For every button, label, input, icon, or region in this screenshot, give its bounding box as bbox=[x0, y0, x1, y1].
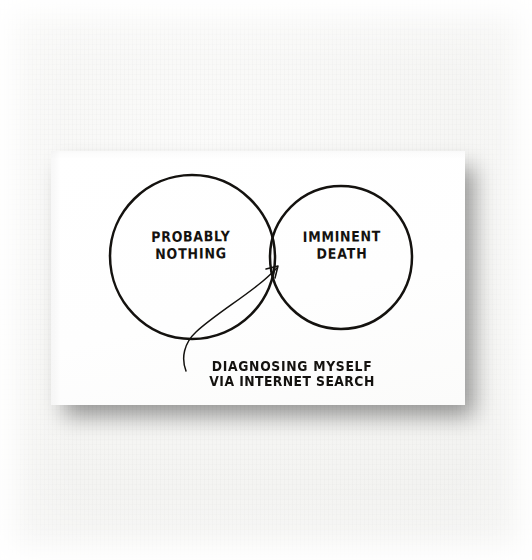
venn-label-right-line2: DEATH bbox=[286, 245, 398, 263]
venn-label-right-line1: IMMINENT bbox=[303, 227, 381, 245]
photograph: PROBABLY NOTHING IMMINENT DEATH DIAGNOSI… bbox=[0, 0, 532, 560]
intersection-caption-line1: DIAGNOSING MYSELF bbox=[212, 357, 373, 374]
venn-label-left-line2: NOTHING bbox=[127, 245, 255, 263]
intersection-caption-line2: VIA INTERNET SEARCH bbox=[186, 374, 398, 390]
venn-label-left: PROBABLY NOTHING bbox=[127, 228, 255, 263]
venn-label-left-line1: PROBABLY bbox=[151, 227, 230, 245]
venn-label-right: IMMINENT DEATH bbox=[286, 228, 398, 262]
intersection-caption: DIAGNOSING MYSELF VIA INTERNET SEARCH bbox=[186, 358, 398, 390]
